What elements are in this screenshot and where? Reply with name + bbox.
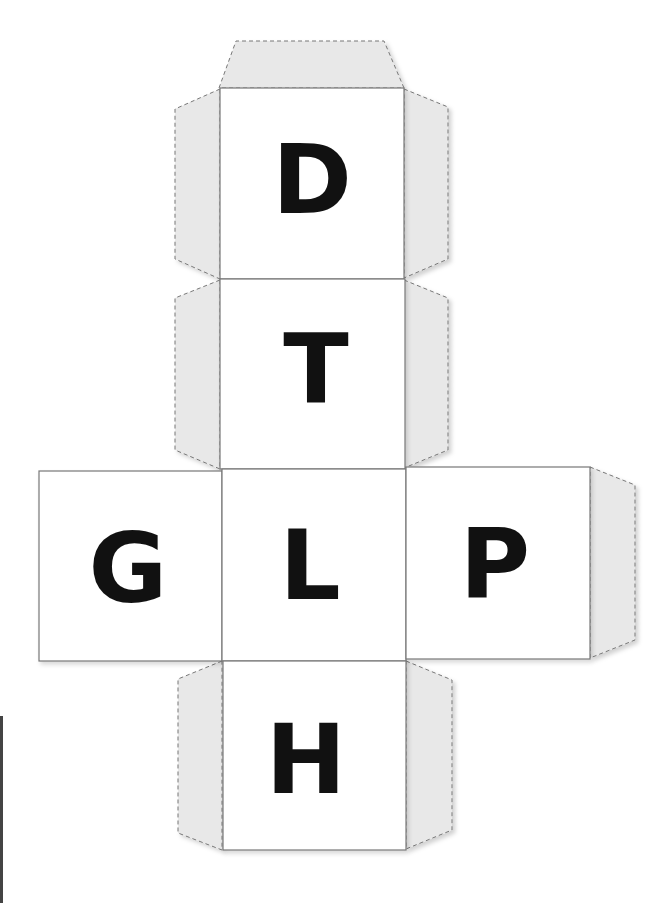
letter-center: L — [279, 510, 340, 622]
tab-h-right — [406, 661, 452, 849]
tab-p-right — [590, 467, 635, 658]
letter-bottom: H — [266, 704, 346, 816]
cube-net-diagram: D T G L P H — [0, 0, 670, 903]
letter-left: G — [89, 513, 168, 625]
letter-top: D — [272, 124, 352, 236]
letter-right: P — [460, 508, 530, 620]
tab-d-right — [404, 89, 448, 278]
tab-h-left — [178, 661, 222, 850]
tab-t-left — [175, 280, 220, 469]
tab-t-right — [404, 280, 448, 468]
tab-top — [219, 41, 404, 88]
letter-upper-middle: T — [283, 314, 348, 426]
tab-d-left — [175, 89, 220, 279]
